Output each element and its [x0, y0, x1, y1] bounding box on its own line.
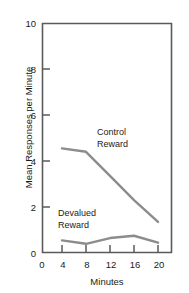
x-axis-label: Minutes: [42, 276, 172, 287]
series-line-devalued: [62, 236, 158, 244]
y-tick-label-6: 6: [14, 110, 36, 121]
series-annotation-control-line2: Reward: [97, 139, 128, 151]
series-annotation-devalued-line1: Devalued: [58, 208, 96, 220]
series-annotation-devalued: Devalued Reward: [58, 208, 96, 231]
y-tick-label-4: 4: [14, 156, 36, 167]
x-tick-label-8: 8: [77, 259, 97, 270]
x-tick-label-16: 16: [125, 259, 145, 270]
y-axis-label: Mean Responses per Minute: [23, 28, 34, 228]
y-tick-label-10: 10: [14, 18, 36, 29]
y-tick-label-0: 0: [14, 248, 36, 259]
x-tick-label-20: 20: [149, 259, 169, 270]
chart-figure: Mean Responses per Minute Minutes 10 8 6…: [0, 0, 189, 293]
x-tick-label-0: 0: [32, 259, 52, 270]
x-tick-label-12: 12: [101, 259, 121, 270]
y-tick-label-8: 8: [14, 64, 36, 75]
series-annotation-control: Control Reward: [97, 127, 128, 150]
series-annotation-control-line1: Control: [97, 127, 128, 139]
series-annotation-devalued-line2: Reward: [58, 220, 96, 232]
x-tick-label-4: 4: [53, 259, 73, 270]
y-tick-label-2: 2: [14, 202, 36, 213]
